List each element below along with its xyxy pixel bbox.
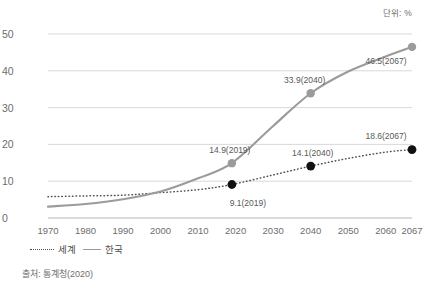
legend-label-world: 세계	[58, 242, 76, 256]
source-note: 출처: 통계청(2020)	[22, 267, 93, 280]
data-point-label: 14.1(2040)	[292, 148, 333, 158]
data-point-label: 14.9(2019)	[209, 145, 250, 155]
legend-item-korea: 한국	[83, 242, 123, 256]
data-point-label: 33.9(2040)	[284, 75, 325, 85]
data-point-label: 18.6(2067)	[365, 131, 406, 141]
solid-line-icon	[83, 249, 101, 250]
chart-legend: 세계 한국	[30, 242, 123, 256]
dotted-line-icon	[30, 249, 54, 250]
legend-label-korea: 한국	[105, 242, 123, 256]
data-point-label: 46.5(2067)	[365, 56, 406, 66]
data-point-label: 9.1(2019)	[230, 198, 266, 208]
legend-item-world: 세계	[30, 242, 76, 256]
